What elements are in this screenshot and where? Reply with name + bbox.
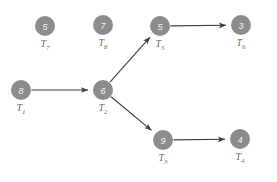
node-label-t8: T8 xyxy=(98,37,108,51)
edge-T5-T6 xyxy=(170,25,226,26)
node-label-t2: T2 xyxy=(98,102,108,116)
node-label-t5: T5 xyxy=(155,38,165,52)
node-label-sub-t5: 5 xyxy=(161,44,165,52)
node-label-t1: T1 xyxy=(16,102,25,116)
node-label-sub-t4: 4 xyxy=(241,157,245,165)
edges-layer xyxy=(32,25,227,140)
node-label-t3: T3 xyxy=(158,152,168,166)
edge-T2-T3 xyxy=(111,97,151,131)
node-label-sub-t2: 2 xyxy=(104,108,108,116)
graph-node-t1[interactable]: 8T1 xyxy=(11,80,31,116)
graph-node-t5[interactable]: 5T5 xyxy=(150,16,170,52)
node-label-sub-t1: 1 xyxy=(22,108,26,116)
edge-T3-T4 xyxy=(173,139,225,140)
graph-node-t4[interactable]: 4T4 xyxy=(230,129,250,165)
node-value-t2: 6 xyxy=(100,86,105,96)
node-label-sub-t7: 7 xyxy=(46,44,50,52)
node-label-sub-t6: 6 xyxy=(242,43,246,51)
node-value-t3: 9 xyxy=(160,136,165,146)
node-label-t4: T4 xyxy=(235,151,245,165)
node-value-t6: 3 xyxy=(238,21,243,31)
node-label-sub-t3: 3 xyxy=(163,158,168,166)
edge-T2-T5 xyxy=(110,37,150,82)
node-label-sub-t8: 8 xyxy=(104,43,108,51)
node-label-t6: T6 xyxy=(236,37,246,51)
graph-node-t6[interactable]: 3T6 xyxy=(231,15,251,51)
graph-node-t8[interactable]: 7T8 xyxy=(93,15,113,51)
graph-node-t2[interactable]: 6T2 xyxy=(93,80,113,116)
node-value-t4: 4 xyxy=(237,135,242,145)
graph-svg: 5T77T85T53T68T16T29T34T4 xyxy=(0,0,277,182)
graph-node-t3[interactable]: 9T3 xyxy=(153,130,173,166)
node-value-t1: 8 xyxy=(18,86,23,96)
graph-node-t7[interactable]: 5T7 xyxy=(35,16,55,52)
node-label-t7: T7 xyxy=(40,38,50,52)
diagram-canvas: 5T77T85T53T68T16T29T34T4 xyxy=(0,0,277,182)
